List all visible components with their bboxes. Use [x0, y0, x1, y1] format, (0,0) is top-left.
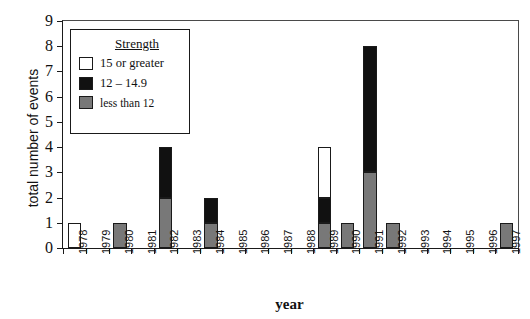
legend-swatch-white — [79, 57, 93, 70]
x-tick-label-1997: 1997 — [510, 174, 522, 254]
legend-swatch-black — [79, 77, 93, 90]
y-tick-label: 3 — [45, 163, 53, 181]
y-tick-label: 6 — [45, 88, 53, 106]
x-tick-label-1996: 1996 — [487, 174, 499, 254]
legend: Strength 15 or greater12 – 14.9less than… — [70, 29, 190, 134]
y-tick-label: 7 — [45, 62, 53, 80]
x-tick-label-1987: 1987 — [282, 174, 294, 254]
y-tick-5: 5 — [57, 122, 63, 123]
legend-label: less than 12 — [100, 97, 154, 109]
chart-figure: total number of events 0123456789 197819… — [0, 0, 530, 319]
x-tick-label-1991: 1991 — [373, 174, 385, 254]
x-tick-label-1989: 1989 — [328, 174, 340, 254]
x-tick-label-1983: 1983 — [191, 174, 203, 254]
y-tick-label: 9 — [45, 12, 53, 30]
x-axis-title: year — [62, 296, 517, 313]
x-tick-label-1988: 1988 — [305, 174, 317, 254]
legend-entries: 15 or greater12 – 14.9less than 12 — [79, 56, 181, 109]
y-tick-1: 1 — [57, 223, 63, 224]
x-tick-label-1984: 1984 — [214, 174, 226, 254]
x-tick-label-1992: 1992 — [396, 174, 408, 254]
legend-entry: less than 12 — [79, 96, 181, 109]
x-tick-label-1994: 1994 — [441, 174, 453, 254]
x-tick-label-1981: 1981 — [146, 174, 158, 254]
bar-segment — [363, 46, 377, 172]
y-tick-label: 4 — [45, 138, 53, 156]
x-tick-label-1980: 1980 — [123, 174, 135, 254]
y-axis-title: total number of events — [25, 28, 41, 248]
y-tick-label: 1 — [45, 214, 53, 232]
y-tick-label: 8 — [45, 37, 53, 55]
x-tick-label-1986: 1986 — [259, 174, 271, 254]
y-tick-9: 9 — [57, 21, 63, 22]
y-tick-4: 4 — [57, 147, 63, 148]
legend-entry: 15 or greater — [79, 56, 181, 71]
x-tick-label-1979: 1979 — [100, 174, 112, 254]
y-tick-2: 2 — [57, 198, 63, 199]
y-tick-label: 2 — [45, 189, 53, 207]
y-tick-7: 7 — [57, 71, 63, 72]
x-tick-label-1982: 1982 — [168, 174, 180, 254]
legend-title: Strength — [79, 36, 181, 52]
y-tick-8: 8 — [57, 46, 63, 47]
legend-label: 12 – 14.9 — [100, 76, 147, 91]
x-tick — [63, 248, 64, 254]
y-tick-6: 6 — [57, 97, 63, 98]
y-tick-label: 5 — [45, 113, 53, 131]
legend-label: 15 or greater — [100, 56, 164, 71]
x-tick-label-1985: 1985 — [237, 174, 249, 254]
x-tick-label-1978: 1978 — [77, 174, 89, 254]
legend-entry: 12 – 14.9 — [79, 76, 181, 91]
x-tick-label-1993: 1993 — [419, 174, 431, 254]
x-tick-label-1995: 1995 — [464, 174, 476, 254]
x-tick-label-1990: 1990 — [350, 174, 362, 254]
y-tick-3: 3 — [57, 172, 63, 173]
y-tick-label: 0 — [45, 239, 53, 257]
legend-swatch-gray — [79, 96, 93, 109]
